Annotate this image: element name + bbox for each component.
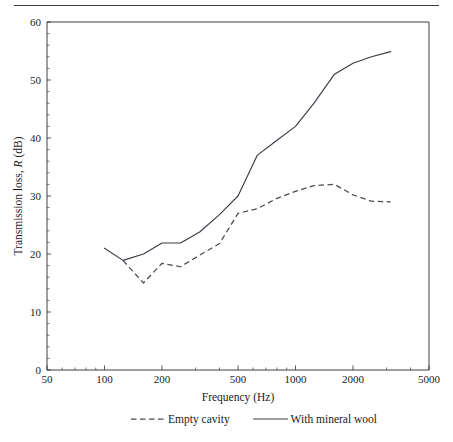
y-tick-label: 10 [30, 306, 42, 318]
data-series [105, 52, 391, 283]
y-axis-title-suffix: (dB) [12, 136, 25, 160]
x-tick-label: 1000 [284, 373, 307, 385]
axis-labels: Frequency (Hz)Transmission loss, R (dB) [12, 136, 274, 404]
x-tick-label: 100 [96, 373, 113, 385]
series-line-solid [105, 52, 391, 261]
x-tick-label: 200 [154, 373, 171, 385]
chart-canvas: 010203040506050100200500100020005000 Fre… [0, 0, 453, 442]
x-tick-label: 50 [42, 373, 54, 385]
y-tick-label: 20 [30, 248, 42, 260]
y-axis-title: Transmission loss, R (dB) [12, 136, 25, 255]
y-axis-title-symbol: R [12, 160, 24, 168]
legend-label[interactable]: With mineral wool [291, 413, 377, 425]
y-tick-label: 40 [30, 132, 42, 144]
figure-container: 010203040506050100200500100020005000 Fre… [0, 0, 453, 442]
legend-label[interactable]: Empty cavity [168, 413, 230, 426]
series-line-dashed [123, 184, 391, 283]
y-axis-title-prefix: Transmission loss, [12, 167, 25, 255]
y-tick-label: 30 [30, 190, 42, 202]
y-tick-label: 50 [30, 74, 42, 86]
x-tick-label: 2000 [342, 373, 365, 385]
x-axis-title: Frequency (Hz) [202, 391, 275, 404]
chart-legend[interactable]: Empty cavityWith mineral wool [131, 413, 377, 426]
y-tick-label: 60 [30, 16, 42, 28]
x-tick-label: 500 [230, 373, 247, 385]
x-tick-label: 5000 [418, 373, 441, 385]
axes: 010203040506050100200500100020005000 [30, 16, 441, 385]
